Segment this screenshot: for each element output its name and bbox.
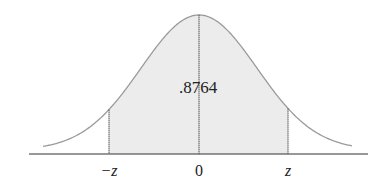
z-label: z [284, 162, 292, 179]
zero-label: 0 [195, 162, 203, 179]
normal-curve-diagram: .8764 −z 0 z [0, 0, 383, 192]
area-label: .8764 [179, 78, 218, 97]
neg-z-label: −z [100, 162, 118, 179]
